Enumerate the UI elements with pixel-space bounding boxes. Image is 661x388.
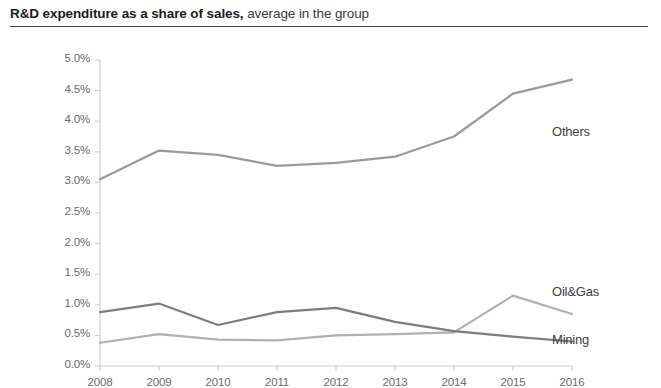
x-axis-tick-label: 2010 bbox=[194, 376, 242, 388]
x-axis-tick-label: 2016 bbox=[548, 376, 596, 388]
line-chart: 0.0%0.5%1.0%1.5%2.0%2.5%3.0%3.5%4.0%4.5%… bbox=[0, 34, 661, 388]
series-label-mining: Mining bbox=[552, 332, 589, 347]
y-axis-tick-label: 2.0% bbox=[44, 236, 90, 248]
y-axis-tick-label: 4.5% bbox=[44, 83, 90, 95]
y-axis-tick-label: 3.0% bbox=[44, 174, 90, 186]
y-axis-tick-label: 5.0% bbox=[44, 52, 90, 64]
series-line-others bbox=[100, 80, 572, 180]
y-axis-ticks bbox=[95, 60, 100, 366]
chart-axes bbox=[95, 60, 572, 371]
y-axis-tick-label: 0.5% bbox=[44, 327, 90, 339]
x-axis-tick-label: 2013 bbox=[371, 376, 419, 388]
page-title-strong: R&D expenditure as a share of sales, bbox=[10, 6, 244, 21]
x-axis-tick-label: 2008 bbox=[76, 376, 124, 388]
page-title: R&D expenditure as a share of sales, ave… bbox=[10, 4, 650, 28]
chart-page: R&D expenditure as a share of sales, ave… bbox=[0, 0, 661, 388]
y-axis-tick-label: 1.0% bbox=[44, 297, 90, 309]
y-axis-tick-label: 0.0% bbox=[44, 358, 90, 370]
x-axis-tick-label: 2012 bbox=[312, 376, 360, 388]
series-label-oilgas: Oil&Gas bbox=[552, 284, 599, 299]
x-axis-ticks bbox=[100, 366, 572, 371]
x-axis-tick-label: 2014 bbox=[430, 376, 478, 388]
x-axis-tick-label: 2015 bbox=[489, 376, 537, 388]
chart-series-lines bbox=[100, 80, 572, 343]
series-label-others: Others bbox=[552, 124, 590, 139]
y-axis-tick-label: 3.5% bbox=[44, 144, 90, 156]
x-axis-tick-label: 2011 bbox=[253, 376, 301, 388]
y-axis-tick-label: 1.5% bbox=[44, 266, 90, 278]
y-axis-tick-label: 4.0% bbox=[44, 113, 90, 125]
page-title-subtitle: average in the group bbox=[244, 6, 370, 21]
y-axis-tick-label: 2.5% bbox=[44, 205, 90, 217]
x-axis-tick-label: 2009 bbox=[135, 376, 183, 388]
title-underline-rule bbox=[10, 26, 648, 27]
